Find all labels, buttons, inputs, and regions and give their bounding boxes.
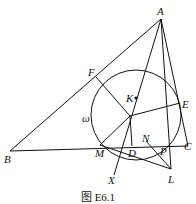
label-X: X [107,174,116,186]
label-D: D [127,147,136,159]
segment-ID [130,116,132,146]
segment-EI [130,103,180,116]
label-E: E [181,98,189,110]
segment-AB [10,19,161,151]
label-M: M [94,147,105,159]
label-omega: ω [82,112,90,124]
label-L: L [167,173,174,185]
segment-FI [96,77,130,116]
point-K-dot [134,96,137,99]
geometry-figure: A B C D E F K M N P L X ω 图 E6.1 [0,0,196,204]
figure-caption: 图 E6.1 [81,191,115,203]
label-A: A [156,5,164,17]
label-B: B [4,153,11,165]
label-C: C [184,140,192,152]
label-N: N [141,132,150,144]
label-P: P [159,145,167,157]
segment-MI [100,116,130,145]
label-F: F [87,66,95,78]
label-K: K [125,92,134,104]
